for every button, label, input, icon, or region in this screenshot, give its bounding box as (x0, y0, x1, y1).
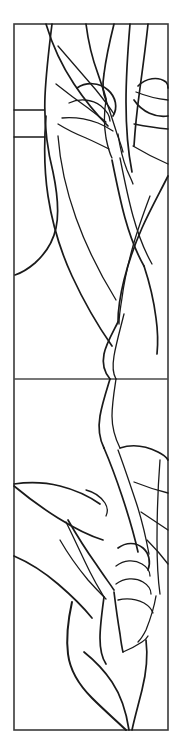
stained-glass-pattern-canvas (0, 0, 182, 750)
paper-background (0, 0, 182, 750)
stained-glass-drawing (0, 0, 182, 750)
